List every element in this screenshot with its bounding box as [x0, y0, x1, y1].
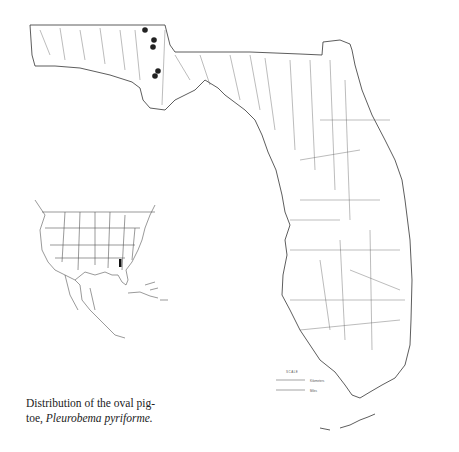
florida-map: [30, 25, 412, 430]
inset-map: [35, 200, 168, 338]
occurrence-marker: [142, 27, 148, 33]
occurrence-marker: [152, 73, 158, 79]
distribution-map: [0, 0, 459, 452]
scale-title: SCALE: [286, 370, 298, 374]
occurrence-marker: [151, 37, 157, 43]
hydrology-lines: [40, 28, 405, 350]
scale-unit-miles: Miles: [310, 389, 317, 393]
inset-state-borders: [42, 212, 155, 270]
species-name: Pleurobema pyriforme.: [46, 412, 153, 424]
caption-line-2: toe, Pleurobema pyriforme.: [26, 411, 201, 426]
inset-range-highlight: [119, 259, 122, 267]
florida-outline: [30, 25, 412, 398]
occurrence-points: [142, 27, 161, 79]
florida-keys: [320, 414, 375, 430]
caption-prefix: toe,: [26, 412, 46, 424]
inset-caribbean: [128, 282, 168, 300]
occurrence-marker: [155, 68, 161, 74]
figure-caption: Distribution of the oval pig- toe, Pleur…: [26, 396, 201, 426]
occurrence-marker: [150, 44, 156, 50]
scale-unit-km: Kilometers: [310, 379, 324, 383]
caption-line-1: Distribution of the oval pig-: [26, 396, 201, 411]
scale-bar: SCALE Kilometers Miles: [272, 370, 332, 400]
